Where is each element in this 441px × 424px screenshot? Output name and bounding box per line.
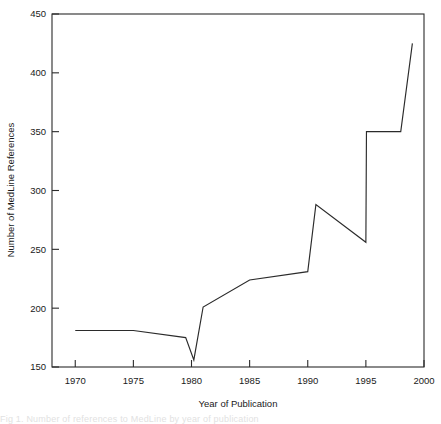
y-axis-tick-labels: 150200250300350400450 (30, 8, 46, 372)
line-chart: 150200250300350400450 197019751980198519… (0, 0, 441, 424)
x-tick-label-1970: 1970 (65, 375, 86, 386)
x-tick-label-1990: 1990 (297, 375, 318, 386)
y-tick-label-400: 400 (30, 67, 46, 78)
y-tick-label-350: 350 (30, 126, 46, 137)
x-tick-label-1975: 1975 (123, 375, 144, 386)
x-axis-tick-labels: 1970197519801985199019952000 (65, 375, 435, 386)
x-tick-label-1985: 1985 (239, 375, 260, 386)
y-tick-label-450: 450 (30, 8, 46, 19)
x-axis-title: Year of Publication (199, 398, 278, 409)
x-tick-label-1980: 1980 (181, 375, 202, 386)
y-tick-label-250: 250 (30, 244, 46, 255)
y-tick-label-200: 200 (30, 303, 46, 314)
plot-frame (52, 14, 424, 367)
plot-area-border (52, 14, 424, 367)
x-tick-label-2000: 2000 (413, 375, 434, 386)
chart-figure: 150200250300350400450 197019751980198519… (0, 0, 441, 424)
y-axis-title: Number of MedLine References (5, 122, 16, 257)
y-tick-label-300: 300 (30, 185, 46, 196)
x-tick-label-1995: 1995 (355, 375, 376, 386)
y-tick-label-150: 150 (30, 361, 46, 372)
figure-caption-cropped: Fig 1. Number of references to MedLine b… (0, 414, 441, 424)
